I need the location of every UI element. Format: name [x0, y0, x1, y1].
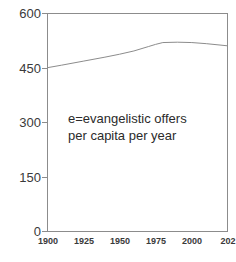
x-axis-label-2025-clipped: 202 — [220, 236, 235, 246]
chart-container: 600 450 300 150 0 e=evangelistic offers … — [0, 0, 236, 262]
y-axis-label-450: 450 — [5, 62, 41, 75]
y-axis-label-300: 300 — [5, 116, 41, 129]
x-axis-label-1925: 1925 — [74, 236, 94, 246]
x-axis-label-2000: 2000 — [182, 236, 202, 246]
x-axis-label-1975: 1975 — [146, 236, 166, 246]
chart-annotation: e=evangelistic offers per capita per yea… — [68, 110, 228, 144]
x-axis-label-1950: 1950 — [110, 236, 130, 246]
series-line-e — [47, 42, 228, 68]
y-axis-label-150: 150 — [5, 171, 41, 184]
x-axis-label-1900: 1900 — [38, 236, 58, 246]
annotation-line-1: e=evangelistic offers — [68, 110, 228, 127]
annotation-line-2: per capita per year — [68, 127, 228, 144]
x-axis-labels: 1900 1925 1950 1975 2000 202 — [0, 236, 236, 254]
y-axis-label-600: 600 — [5, 7, 41, 20]
y-axis-labels: 600 450 300 150 0 — [0, 0, 41, 262]
